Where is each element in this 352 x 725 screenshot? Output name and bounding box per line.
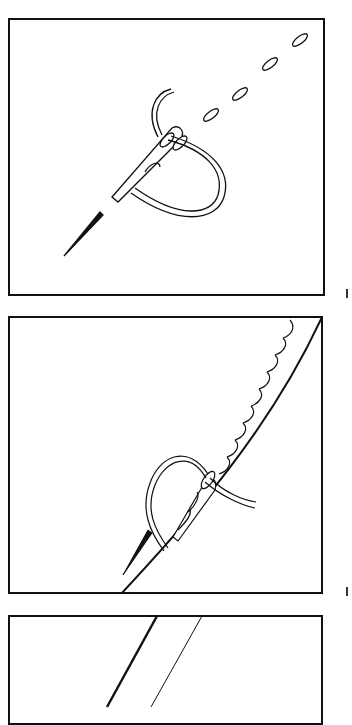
illustration-panel-2: [8, 316, 323, 594]
margin-mark-2: [346, 587, 348, 596]
illustration-panel-1: [8, 18, 325, 296]
needle-thread-drawing-1: [8, 18, 325, 296]
illustration-panel-3: [8, 615, 323, 725]
parallel-lines-drawing: [8, 615, 323, 725]
margin-mark-1: [346, 289, 348, 298]
needle-thread-drawing-2: [8, 316, 323, 594]
